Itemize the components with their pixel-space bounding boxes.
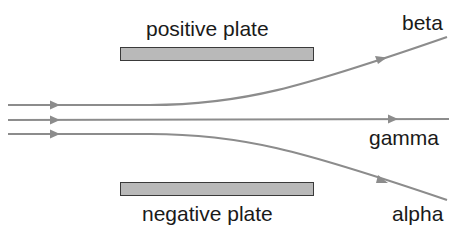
beta-label: beta bbox=[402, 12, 443, 33]
gamma-exit-arrow-icon bbox=[388, 115, 398, 124]
positive-plate bbox=[120, 47, 314, 61]
alpha-entry-arrow-icon bbox=[50, 130, 60, 139]
radiation-deflection-diagram: positive plate negative plate beta gamma… bbox=[0, 0, 465, 242]
beta-entry-arrow-icon bbox=[50, 101, 60, 110]
negative-plate bbox=[120, 182, 314, 196]
gamma-entry-arrow-icon bbox=[50, 116, 60, 125]
alpha-label: alpha bbox=[392, 203, 443, 224]
gamma-ray bbox=[8, 115, 449, 125]
negative-plate-label: negative plate bbox=[142, 203, 273, 224]
positive-plate-label: positive plate bbox=[146, 18, 269, 39]
gamma-label: gamma bbox=[369, 127, 439, 148]
